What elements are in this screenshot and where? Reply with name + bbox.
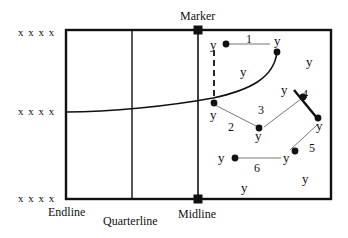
defender-y: y bbox=[274, 33, 281, 48]
pass-line-3 bbox=[264, 99, 301, 127]
endline-label: Endline bbox=[48, 205, 85, 219]
pass-number-6: 6 bbox=[254, 161, 260, 175]
pass-number-3: 3 bbox=[258, 103, 264, 117]
defender-y: y bbox=[255, 128, 262, 143]
run-curve bbox=[66, 52, 277, 112]
court-diagram: 1 2 3 4 5 6 y y y y y y y y y y y y x x … bbox=[0, 0, 348, 238]
pass-number-4: 4 bbox=[302, 87, 308, 101]
pass-number-2: 2 bbox=[228, 120, 234, 134]
quarterline-label: Quarterline bbox=[103, 214, 158, 228]
attackers-row-bottom: x x x x bbox=[18, 192, 55, 204]
ball-dot bbox=[292, 148, 299, 155]
ball-dot bbox=[232, 155, 239, 162]
attackers-row-middle: x x x x bbox=[18, 105, 55, 117]
attackers-row-top: x x x x bbox=[18, 26, 55, 38]
defender-y: y bbox=[283, 150, 290, 165]
marker-label: Marker bbox=[180, 9, 215, 23]
midline-label: Midline bbox=[178, 207, 216, 221]
ball-dot bbox=[223, 41, 230, 48]
ball-dot bbox=[274, 49, 281, 56]
defender-y: y bbox=[210, 37, 217, 52]
pass-line-2 bbox=[215, 105, 258, 127]
defender-y: y bbox=[218, 150, 225, 165]
pass-number-5: 5 bbox=[309, 141, 315, 155]
marker-top bbox=[194, 26, 203, 35]
defender-y: y bbox=[316, 118, 323, 133]
defender-y: y bbox=[210, 107, 217, 122]
defender-y: y bbox=[281, 82, 288, 97]
defender-y: y bbox=[306, 54, 313, 69]
defender-y: y bbox=[241, 180, 248, 195]
defender-y: y bbox=[240, 64, 247, 79]
ball-dot bbox=[211, 100, 218, 107]
pass-number-1: 1 bbox=[246, 32, 252, 46]
marker-bottom bbox=[194, 195, 203, 204]
defender-y: y bbox=[302, 171, 309, 186]
